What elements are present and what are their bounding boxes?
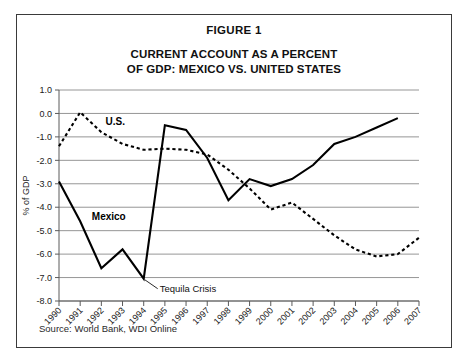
source-note: Source: World Bank, WDI Online [39, 323, 177, 334]
series-label-mexico: Mexico [92, 211, 126, 222]
y-tick-label: -7.0 [36, 273, 52, 283]
chart-plot: 1.00.0-1.0-2.0-3.0-4.0-5.0-6.0-7.0-8.0 1… [17, 15, 453, 349]
x-tick-label: 2004 [339, 305, 360, 326]
y-tick-label: -5.0 [36, 226, 52, 236]
series-line-mexico [59, 118, 398, 279]
x-tick-label: 2006 [381, 305, 402, 326]
series-line-us [59, 112, 419, 256]
y-tick-label: -2.0 [36, 156, 52, 166]
x-tick-label: 2001 [275, 305, 296, 326]
x-tick-label: 2000 [254, 305, 275, 326]
x-tick-label: 1999 [233, 305, 254, 326]
y-tick-label: -8.0 [36, 296, 52, 306]
figure-frame: FIGURE 1 CURRENT ACCOUNT AS A PERCENT OF… [16, 14, 452, 348]
x-tick-label: 1997 [190, 305, 211, 326]
y-tick-label: 1.0 [39, 85, 52, 95]
y-tick-label: -1.0 [36, 132, 52, 142]
x-tick-label: 1998 [212, 305, 233, 326]
y-axis-title: % of GDP [21, 175, 31, 215]
y-tick-label: 0.0 [39, 109, 52, 119]
x-tick-label: 2002 [296, 305, 317, 326]
series-label-us: U.S. [106, 116, 126, 127]
annotation-tequila-crisis: Tequila Crisis [160, 283, 217, 294]
callout-leader-line-icon [145, 280, 158, 289]
x-tick-label: 2005 [360, 305, 381, 326]
y-axis-tick-labels: 1.00.0-1.0-2.0-3.0-4.0-5.0-6.0-7.0-8.0 [36, 85, 52, 306]
y-tick-label: -4.0 [36, 202, 52, 212]
x-tick-label: 2007 [402, 305, 423, 326]
x-tick-label: 2003 [317, 305, 338, 326]
y-tick-label: -6.0 [36, 249, 52, 259]
y-tick-label: -3.0 [36, 179, 52, 189]
